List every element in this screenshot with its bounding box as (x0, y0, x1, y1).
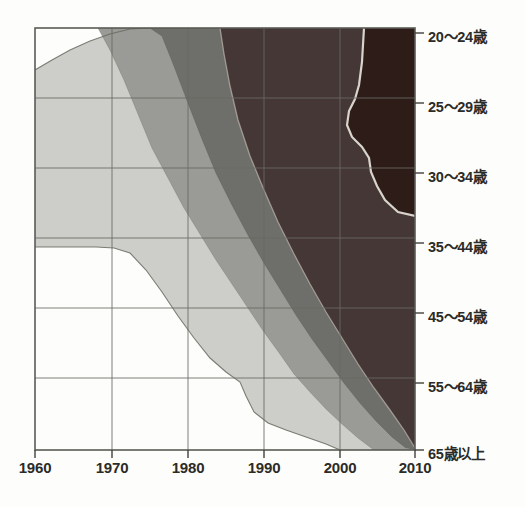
x-tick-label-1960: 1960 (5, 459, 65, 476)
y-tick-label-45-54: 45～54歳 (428, 305, 486, 326)
y-tick-label-30-34: 30～34歳 (428, 165, 486, 186)
x-tick-label-2000: 2000 (310, 459, 370, 476)
x-tick-label-1980: 1980 (158, 459, 218, 476)
y-axis-ticks (415, 33, 424, 450)
y-tick-label-25-29: 25～29歳 (428, 95, 486, 116)
y-tick-label-35-44: 35～44歳 (428, 235, 486, 256)
contour-chart: 1960 1970 1980 1990 2000 2010 20～24歳 25～… (0, 0, 525, 507)
y-tick-label-20-24: 20～24歳 (428, 25, 486, 46)
y-tick-label-55-64: 55～64歳 (428, 375, 486, 396)
y-tick-label-65-over: 65歳以上 (428, 442, 485, 463)
x-axis-ticks (35, 450, 415, 458)
x-tick-label-1990: 1990 (234, 459, 294, 476)
x-tick-label-1970: 1970 (82, 459, 142, 476)
